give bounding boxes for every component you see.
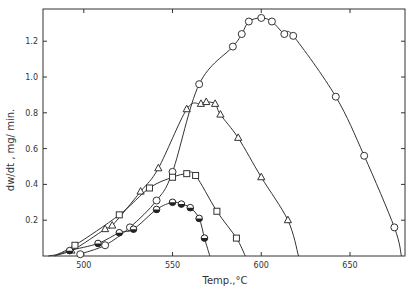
square-marker	[146, 185, 152, 191]
circle-marker	[229, 43, 236, 50]
y-tick-label: 0.2	[25, 216, 38, 225]
square-marker	[170, 174, 176, 180]
triangle-marker	[217, 111, 224, 118]
triangle-marker	[284, 216, 291, 223]
x-tick-label: 550	[165, 261, 180, 270]
x-tick-label: 600	[254, 261, 269, 270]
chart-container: 5005506006500.20.40.60.81.01.2Temp.,°Cdw…	[0, 0, 416, 293]
triangle-marker	[203, 98, 210, 105]
circle-marker	[281, 31, 288, 38]
circle-marker	[268, 18, 275, 25]
x-tick-label: 650	[342, 261, 357, 270]
circle-marker	[245, 18, 252, 25]
y-tick-label: 0.6	[25, 145, 38, 154]
triangle-marker	[258, 173, 265, 180]
circle-marker	[332, 93, 339, 100]
circle-marker	[77, 251, 84, 258]
circle-marker	[102, 242, 109, 249]
y-tick-label: 0.8	[25, 109, 38, 118]
triangle-marker	[155, 164, 162, 171]
x-axis-label: Temp.,°C	[202, 275, 248, 286]
square-marker	[233, 235, 239, 241]
y-tick-label: 0.4	[25, 180, 38, 189]
plot-frame	[43, 9, 405, 256]
circle-marker	[258, 14, 265, 21]
circle-marker	[196, 81, 203, 88]
circle-marker	[153, 197, 160, 204]
rate-vs-temperature-chart: 5005506006500.20.40.60.81.01.2Temp.,°Cdw…	[0, 0, 416, 293]
circle-marker	[238, 31, 245, 38]
triangle-marker	[102, 225, 109, 232]
square-marker	[72, 242, 78, 248]
y-axis-label: dw/dt , mg/ min.	[5, 109, 16, 191]
square-marker	[116, 212, 122, 218]
y-tick-label: 1.2	[25, 37, 38, 46]
circle-marker	[290, 32, 297, 39]
circle-marker	[361, 152, 368, 159]
square-marker	[193, 172, 199, 178]
square-marker	[184, 171, 190, 177]
y-tick-label: 1.0	[25, 73, 38, 82]
circle-marker	[391, 224, 398, 231]
square-marker	[214, 208, 220, 214]
x-tick-label: 500	[76, 261, 91, 270]
